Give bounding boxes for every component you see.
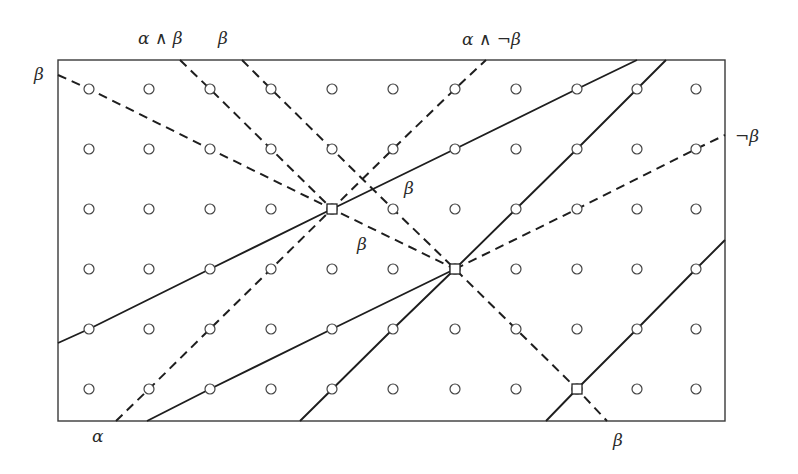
- grid-point: [84, 324, 94, 334]
- label-beta-left: β: [34, 66, 44, 83]
- grid-point: [205, 84, 215, 94]
- grid-point: [144, 324, 154, 334]
- grid-point: [632, 204, 642, 214]
- grid-point: [632, 84, 642, 94]
- grid-point: [205, 264, 215, 274]
- grid-point: [572, 204, 582, 214]
- grid-point: [632, 264, 642, 274]
- solid-lines: [58, 60, 725, 421]
- grid-point: [511, 84, 521, 94]
- grid-point: [327, 144, 337, 154]
- label-not-beta-right: ¬β: [735, 128, 759, 145]
- grid-point: [144, 144, 154, 154]
- dashed-beta-left: [58, 75, 455, 269]
- grid-point: [450, 84, 460, 94]
- grid-point: [205, 204, 215, 214]
- label-beta-bottom: β: [613, 432, 623, 449]
- dashed-alpha-and-beta: [180, 60, 332, 209]
- grid-point: [632, 384, 642, 394]
- grid-point: [572, 84, 582, 94]
- grid-point: [266, 264, 276, 274]
- label-beta-center-lower: β: [357, 236, 367, 253]
- grid-point: [572, 264, 582, 274]
- grid-point: [266, 144, 276, 154]
- grid-point: [144, 384, 154, 394]
- grid-point: [450, 324, 460, 334]
- grid-point: [84, 144, 94, 154]
- grid-point: [205, 144, 215, 154]
- solid-3: [300, 60, 666, 421]
- frame: [58, 60, 725, 421]
- grid-point: [511, 144, 521, 154]
- grid-point: [205, 384, 215, 394]
- grid-point: [388, 324, 398, 334]
- grid-point: [511, 324, 521, 334]
- grid-point: [327, 324, 337, 334]
- grid-point: [84, 264, 94, 274]
- grid-point: [691, 324, 701, 334]
- grid-point: [691, 84, 701, 94]
- grid-point: [511, 264, 521, 274]
- grid-point: [632, 144, 642, 154]
- label-beta-top: β: [218, 30, 228, 47]
- grid-point: [388, 84, 398, 94]
- dashed-lines: [58, 60, 725, 421]
- grid-point: [266, 204, 276, 214]
- grid-point: [327, 84, 337, 94]
- grid-point: [327, 384, 337, 394]
- grid-point: [450, 204, 460, 214]
- lattice-diagram: [0, 0, 798, 474]
- label-alpha-and-beta: α ∧ β: [138, 30, 183, 47]
- intersection-nodes: [327, 204, 582, 394]
- intersection-node: [327, 204, 337, 214]
- grid-point: [205, 324, 215, 334]
- grid-point: [144, 84, 154, 94]
- solid-1: [58, 60, 637, 343]
- grid-point: [266, 84, 276, 94]
- dashed-not-beta: [455, 135, 725, 269]
- grid-point: [572, 144, 582, 154]
- grid-point: [327, 264, 337, 274]
- grid-point: [388, 144, 398, 154]
- grid-point: [84, 384, 94, 394]
- grid-point: [691, 204, 701, 214]
- intersection-node: [572, 384, 582, 394]
- grid-point: [84, 84, 94, 94]
- grid-point: [691, 144, 701, 154]
- grid-point: [691, 264, 701, 274]
- grid-point: [450, 144, 460, 154]
- grid-point: [144, 264, 154, 274]
- dashed-beta-top: [242, 60, 607, 421]
- grid-point: [388, 204, 398, 214]
- grid-point: [266, 384, 276, 394]
- grid-point: [144, 204, 154, 214]
- grid-point: [388, 264, 398, 274]
- grid-point: [388, 384, 398, 394]
- grid-point: [450, 384, 460, 394]
- grid-point: [632, 324, 642, 334]
- grid-point: [266, 324, 276, 334]
- grid-point: [691, 384, 701, 394]
- grid-points: [84, 84, 701, 394]
- grid-point: [572, 324, 582, 334]
- grid-point: [511, 204, 521, 214]
- dashed-alpha: [116, 60, 486, 421]
- intersection-node: [450, 264, 460, 274]
- label-beta-center-upper: β: [404, 180, 414, 197]
- grid-point: [84, 204, 94, 214]
- grid-point: [511, 384, 521, 394]
- label-alpha-and-not-beta: α ∧ ¬β: [462, 31, 521, 48]
- label-alpha-bottom: α: [92, 428, 103, 445]
